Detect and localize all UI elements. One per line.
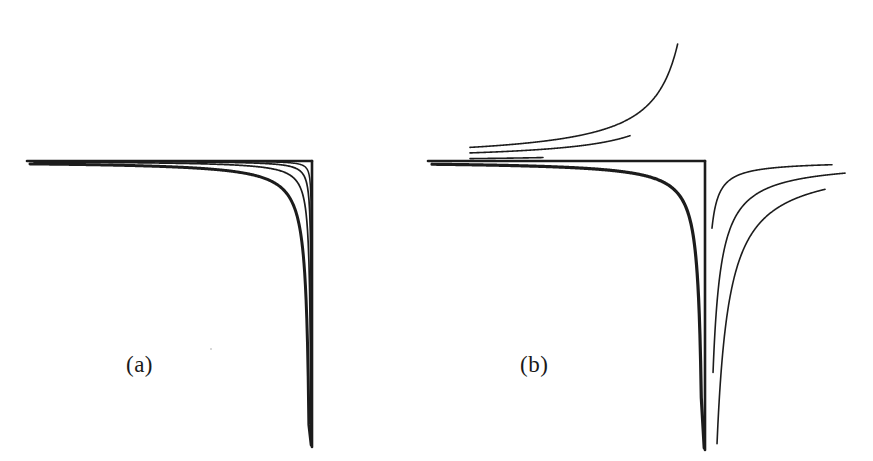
panel-b-curve-upper-1 — [470, 158, 543, 159]
panel-a-curve-3 — [40, 161, 311, 445]
panel-b-curve-right-3 — [717, 189, 825, 443]
panel-b-graphics — [428, 44, 845, 450]
panel-a-graphics — [27, 161, 312, 447]
panel-b-curve-right-2 — [713, 173, 845, 372]
panel-b-curve-right-1 — [712, 165, 832, 228]
figure-root: (a) (b) — [0, 0, 873, 461]
panel-b-curve-upper-3 — [470, 44, 678, 147]
panel-b-label: (b) — [520, 352, 548, 378]
panel-a-curve-4-inner — [48, 161, 311, 445]
panel-b-curve-main-inside — [432, 164, 704, 448]
panel-a-curve-2 — [34, 162, 311, 445]
figure-canvas — [0, 0, 873, 461]
panel-b-curve-upper-2 — [470, 136, 630, 153]
panel-a-curve-1-outer — [30, 164, 311, 445]
paper-speck — [210, 348, 212, 350]
panel-a-label: (a) — [126, 352, 153, 378]
